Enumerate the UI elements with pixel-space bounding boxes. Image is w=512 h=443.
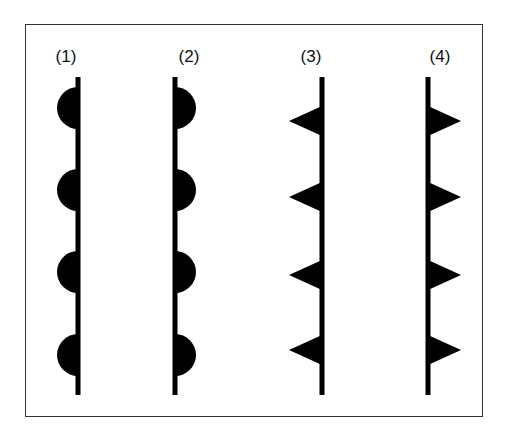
semicircle-symbol bbox=[57, 87, 78, 129]
semicircle-symbol bbox=[175, 334, 196, 376]
semicircle-symbol bbox=[57, 334, 78, 376]
front-line-4 bbox=[426, 77, 462, 395]
triangle-symbol bbox=[428, 106, 461, 136]
semicircle-symbol bbox=[175, 169, 196, 211]
triangle-symbol bbox=[428, 182, 461, 212]
front-line-3 bbox=[289, 77, 325, 395]
front-line-1 bbox=[57, 77, 81, 395]
semicircle-symbol bbox=[57, 169, 78, 211]
semicircle-symbol bbox=[57, 251, 78, 293]
triangle-symbol bbox=[289, 260, 322, 290]
semicircle-symbol bbox=[175, 251, 196, 293]
triangle-symbol bbox=[289, 182, 322, 212]
triangle-symbol bbox=[289, 335, 322, 365]
triangle-symbol bbox=[289, 106, 322, 136]
triangle-symbol bbox=[428, 260, 461, 290]
semicircle-symbol bbox=[175, 87, 196, 129]
front-line-2 bbox=[173, 77, 197, 395]
triangle-symbol bbox=[428, 335, 461, 365]
front-symbols-diagram bbox=[0, 0, 512, 443]
